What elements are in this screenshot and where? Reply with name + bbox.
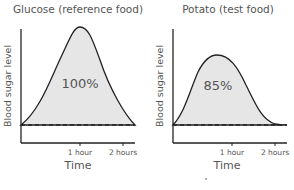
chart-potato: Potato (test food) 85% Blood sugar level… <box>154 3 289 172</box>
chart-title: Glucose (reference food) <box>13 3 143 15</box>
stray-dot <box>205 178 207 180</box>
tick-label-2hours: 2 hours <box>261 148 289 157</box>
glycemic-index-charts: Glucose (reference food) 100% Blood suga… <box>0 0 294 190</box>
tick-label-1hour: 1 hour <box>68 148 93 157</box>
chart-title: Potato (test food) <box>182 3 274 15</box>
chart-glucose: Glucose (reference food) 100% Blood suga… <box>2 3 143 172</box>
x-axis-label: Time <box>213 159 241 172</box>
y-axis-label: Blood sugar level <box>2 45 13 127</box>
tick-label-1hour: 1 hour <box>220 148 245 157</box>
x-axis-label: Time <box>64 159 92 172</box>
percent-label: 100% <box>61 76 98 91</box>
y-axis-label: Blood sugar level <box>154 45 165 127</box>
tick-label-2hours: 2 hours <box>109 148 137 157</box>
percent-label: 85% <box>204 78 233 93</box>
